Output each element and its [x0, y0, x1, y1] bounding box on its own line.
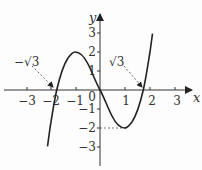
neg-root-arrow — [32, 66, 53, 87]
x-tick-label: −3 — [18, 94, 36, 108]
y-tick-label: −3 — [78, 140, 96, 154]
plot-area: −3 −2 −1 1 2 3 0 3 2 1 −1 −2 −3 x y −√3 … — [0, 0, 202, 170]
x-tick-label: 2 — [148, 94, 156, 108]
x-tick-label: −2 — [42, 94, 60, 108]
x-tick-label: 1 — [122, 94, 130, 108]
cubic-function-graph: −3 −2 −1 1 2 3 0 3 2 1 −1 −2 −3 x y −√3 … — [0, 0, 202, 170]
x-tick-label: 3 — [173, 94, 181, 108]
y-tick-label: −1 — [78, 102, 96, 116]
y-tick-label: −2 — [78, 121, 96, 135]
y-tick-label: 2 — [88, 45, 96, 59]
pos-root-label: √3 — [109, 55, 124, 69]
y-tick-label: 3 — [88, 26, 96, 40]
x-axis-label: x — [193, 90, 201, 105]
y-axis-label: y — [88, 10, 97, 25]
pos-root-arrow — [124, 66, 142, 87]
neg-root-label: −√3 — [14, 55, 39, 69]
